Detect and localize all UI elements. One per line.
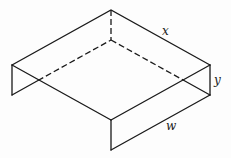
box-drawing: x y w	[0, 0, 231, 158]
left-front-top-edge	[12, 65, 111, 120]
right-front-top-edge	[111, 65, 210, 120]
right-bottom-edge	[111, 95, 210, 150]
label-y: y	[213, 73, 221, 87]
left-bottom-edge	[12, 81, 38, 96]
open-box-diagram: x y w	[0, 0, 231, 158]
label-w: w	[166, 119, 177, 133]
hidden-left-back-bottom-edge	[38, 40, 111, 81]
right-bottom-back-edge	[184, 81, 210, 96]
hidden-right-back-bottom-edge	[111, 40, 184, 81]
label-x: x	[162, 24, 169, 38]
